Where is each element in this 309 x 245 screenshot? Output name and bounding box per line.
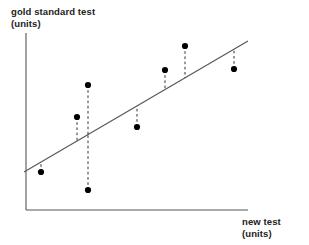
data-point (85, 82, 91, 88)
regression-line-group (24, 41, 248, 172)
y-axis-label: gold standard test (units) (11, 6, 95, 30)
data-point (74, 114, 80, 120)
x-axis-label: new test (units) (242, 216, 281, 240)
regression-line (24, 41, 248, 172)
y-axis-label-text: gold standard test (11, 6, 95, 18)
residual-lines-group (41, 46, 234, 190)
data-point (182, 43, 188, 49)
data-point (134, 124, 140, 130)
scatter-plot-figure: gold standard test (units) new test (uni… (0, 0, 309, 245)
data-point (38, 169, 44, 175)
data-point (85, 187, 91, 193)
y-axis-label-units: (units) (11, 18, 95, 30)
x-axis-label-text: new test (242, 216, 281, 228)
data-point (231, 66, 237, 72)
x-axis-label-units: (units) (242, 228, 281, 240)
data-point (162, 67, 168, 73)
plot-canvas (0, 0, 309, 245)
